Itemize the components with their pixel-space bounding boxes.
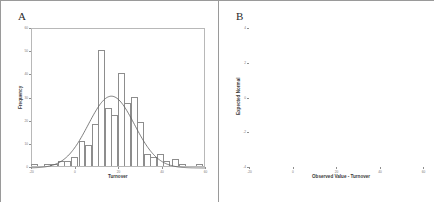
qq-y-tick-label: -2 [239,130,246,134]
y-tick [29,51,31,52]
qq-y-tick-label: -4 [239,165,246,169]
panel-a-label: A [18,10,26,22]
qq-x-tick-label: 40 [377,170,384,174]
x-tick-label: 40 [159,170,166,174]
histogram-plot-area [31,28,205,167]
qq-x-tick-label: 0 [290,170,297,174]
y-tick [29,28,31,29]
x-axis-title: Turnover [108,174,128,179]
qq-x-tick-label: 20 [333,170,340,174]
y-tick [29,74,31,75]
y-tick [29,167,31,168]
qq-y-tick [247,167,249,168]
qq-y-tick [247,28,249,29]
y-tick-label: 50 [21,49,28,53]
x-tick-label: -20 [28,170,35,174]
normal-curve [32,29,206,168]
qq-x-tick-label: 60 [420,170,427,174]
y-tick-label: 10 [21,142,28,146]
y-tick-label: 30 [21,96,28,100]
y-tick-label: 20 [21,119,28,123]
panel-b-qqplot: B Observed Value - Turnover Expected Nor… [218,1,434,202]
qq-y-tick-label: 4 [239,26,246,30]
qq-y-tick [247,63,249,64]
qq-y-tick [247,98,249,99]
qq-x-tick-label: -20 [246,170,253,174]
y-tick [29,121,31,122]
qq-x-axis-title: Observed Value - Turnover [312,174,370,179]
panel-a-histogram: A Turnover Frequency -200204060010203040… [1,1,218,202]
y-tick [29,98,31,99]
x-tick-label: 60 [202,170,209,174]
x-tick-label: 0 [72,170,79,174]
y-tick-label: 40 [21,72,28,76]
qq-y-tick-label: 0 [239,96,246,100]
x-tick-label: 20 [115,170,122,174]
panel-b-label: B [236,10,244,22]
y-tick-label: 0 [21,165,28,169]
qq-y-tick [247,132,249,133]
qq-y-tick-label: 2 [239,61,246,65]
y-tick [29,144,31,145]
y-tick-label: 60 [21,26,28,30]
figure-container: A Turnover Frequency -200204060010203040… [0,0,434,202]
